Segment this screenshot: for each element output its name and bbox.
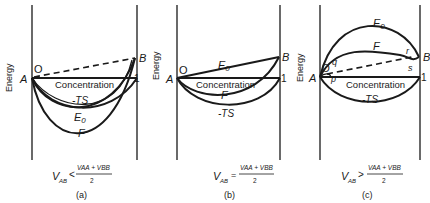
e0-label: E0 bbox=[218, 59, 230, 73]
condition-b: V AB = VAA + VBB 2 bbox=[213, 164, 274, 184]
minus-ts-label: -TS bbox=[362, 94, 378, 105]
label-p: p bbox=[330, 74, 336, 84]
panel-a: A O B 1 Concentration -TS E0 F Energy V … bbox=[4, 5, 146, 200]
label-o: O bbox=[34, 63, 43, 75]
condition-a: V AB < VAA + VBB 2 bbox=[52, 164, 112, 184]
label-one: 1 bbox=[134, 73, 140, 84]
label-o: O bbox=[322, 63, 330, 74]
reference-dashed-line bbox=[34, 58, 135, 77]
caption-b: (b) bbox=[224, 190, 235, 200]
minus-ts-label: -TS bbox=[218, 108, 234, 119]
energy-diagrams: A O B 1 Concentration -TS E0 F Energy V … bbox=[0, 0, 430, 203]
caption-c: (c) bbox=[362, 190, 373, 200]
label-b: B bbox=[139, 52, 146, 64]
label-q: q bbox=[332, 57, 337, 67]
caption-a: (a) bbox=[76, 190, 87, 200]
svg-text:VAA + VBB: VAA + VBB bbox=[77, 164, 110, 171]
label-a: A bbox=[165, 73, 173, 85]
svg-text:AB: AB bbox=[219, 178, 228, 184]
energy-axis-label: Energy bbox=[295, 53, 305, 82]
common-tangent-line bbox=[327, 57, 412, 74]
label-one: 1 bbox=[421, 72, 427, 83]
minus-ts-label: -TS bbox=[72, 95, 88, 106]
svg-text:2: 2 bbox=[382, 177, 386, 184]
svg-text:>: > bbox=[358, 169, 364, 180]
svg-text:AB: AB bbox=[58, 178, 67, 184]
svg-text:<: < bbox=[69, 169, 75, 180]
label-b: B bbox=[282, 51, 289, 63]
concentration-label: Concentration bbox=[55, 79, 114, 90]
e0-label: E0 bbox=[373, 17, 385, 31]
label-b: B bbox=[423, 51, 430, 63]
label-a: A bbox=[19, 73, 27, 85]
label-one: 1 bbox=[281, 73, 287, 84]
energy-axis-label: Energy bbox=[4, 63, 14, 92]
e0-label: E0 bbox=[74, 111, 86, 125]
f-label: F bbox=[373, 40, 381, 52]
concentration-label: Concentration bbox=[346, 79, 405, 90]
svg-text:VAA + VBB: VAA + VBB bbox=[368, 164, 401, 171]
svg-text:2: 2 bbox=[90, 177, 94, 184]
label-o: O bbox=[179, 64, 188, 76]
label-a: A bbox=[308, 72, 316, 84]
panel-b: A O B 1 Concentration E0 F -TS Energy V … bbox=[151, 5, 289, 200]
svg-text:=: = bbox=[231, 170, 236, 180]
svg-text:VAA + VBB: VAA + VBB bbox=[240, 164, 273, 171]
label-s: s bbox=[408, 63, 413, 73]
label-r: r bbox=[406, 46, 410, 56]
svg-text:AB: AB bbox=[347, 178, 356, 184]
condition-c: V AB > VAA + VBB 2 bbox=[341, 164, 403, 184]
panel-c: A O B 1 p q r s Concentration E0 F -TS E… bbox=[295, 5, 430, 200]
svg-text:2: 2 bbox=[253, 177, 257, 184]
energy-axis-label: Energy bbox=[151, 51, 161, 80]
